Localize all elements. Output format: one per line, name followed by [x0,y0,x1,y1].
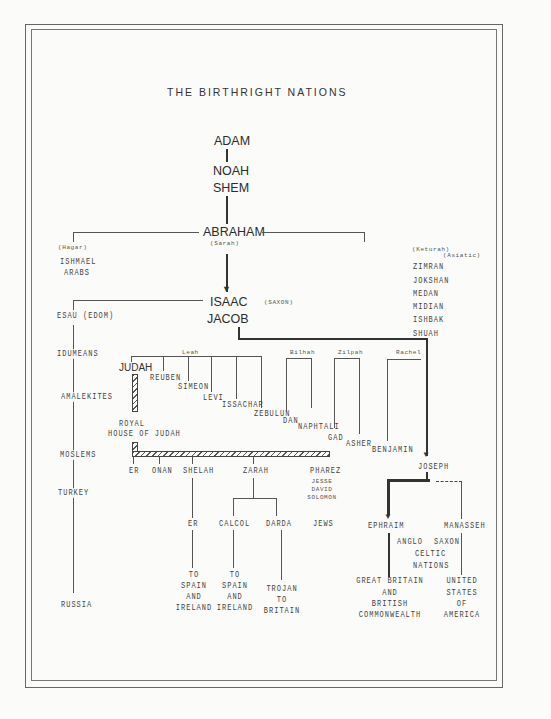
dest-calcol-1: TO [230,570,240,580]
line-er [133,457,134,464]
node-abraham: ABRAHAM [203,225,265,239]
line-leah-levi [211,356,212,392]
node-manasseh: MANASSEH [444,521,486,531]
line-isaac-esau [73,300,203,301]
chart-title: THE BIRTHRIGHT NATIONS [167,86,348,98]
node-house-of-judah: HOUSE OF JUDAH [108,429,181,439]
node-benjamin: BENJAMIN [372,445,414,455]
mother-zilpah: Zilpah [338,349,363,356]
dest-er-2: SPAIN [181,581,207,591]
node-darda: DARDA [266,519,292,529]
line-abraham-right [262,232,365,233]
node-moslems: MOSLEMS [60,450,96,460]
line-zilpah [334,358,360,359]
line-zilpah-gad [334,358,335,428]
people-anglo: ANGLO [397,537,423,547]
node-jokshan: JOKSHAN [413,276,449,286]
line-zarah-sons [233,498,276,499]
line-adam-noah [226,149,228,162]
line-joseph-ephraim-v [387,479,390,515]
node-shelah: SHELAH [183,466,214,476]
line-shelah-er [192,478,193,518]
node-calcol: CALCOL [219,519,250,529]
node-levi: LEVI [203,393,224,403]
node-jesse: JESSE [311,478,332,485]
dest-er-4: IRELAND [176,603,212,613]
hatched-royal-line [132,374,138,412]
node-shelah-er: ER [188,519,198,529]
line-zarah [253,457,254,464]
line-esau-drop [73,300,74,310]
line-zarah-down [253,478,254,498]
arrow-joseph-icon: ▼ [422,450,430,459]
people-nations: NATIONS [413,561,449,571]
dest-er-1: TO [189,570,199,580]
line-bilhah [286,358,312,359]
line-joseph-down [426,472,428,481]
nation-commonwealth: COMMONWEALTH [359,610,421,620]
line-calcol [233,498,234,516]
node-jacob: JACOB [207,312,249,326]
note-sarah: (Sarah) [210,240,239,247]
line-shem-abraham [226,196,228,224]
line-shelah [192,457,193,464]
line-darda [276,498,277,516]
line-bilhah-naphtali [311,358,312,408]
line-rachel [387,359,421,360]
node-noah: NOAH [213,164,249,178]
node-adam: ADAM [214,134,250,148]
node-gad: GAD [328,433,344,443]
people-saxon: SAXON [434,537,460,547]
line-leah-simeon [188,356,189,381]
line-manasseh-v [461,481,462,519]
node-idumeans: IDUMEANS [57,349,99,359]
line-keturah-drop [364,232,365,242]
line-joseph-manasseh-dashed [436,481,462,483]
line-jacob-joseph-v [426,338,428,456]
node-dan: DAN [283,416,299,426]
hatched-royal-bar [132,451,330,457]
mother-leah: Leah [182,349,199,356]
line-darda-britain [281,530,282,580]
line-zilpah-asher [359,358,360,434]
node-onan: ONAN [152,466,173,476]
node-zimran: ZIMRAN [413,262,444,272]
node-solomon: SOLOMON [307,494,336,501]
line-manasseh-usa [461,533,462,575]
dest-darda-3: BRITAIN [264,606,300,616]
line-calcol-spain [233,530,234,568]
nation-great-britain: GREAT BRITAIN [356,576,424,586]
node-reuben: REUBEN [150,373,181,383]
arrow-down-icon: ▼ [222,284,231,294]
line-onan [159,457,160,464]
line-jacob-joseph-h [238,338,428,340]
line-rachel-benjamin [387,359,388,441]
node-amalekites: AMALEKITES [61,392,113,402]
node-asher: ASHER [346,439,372,449]
node-joseph: JOSEPH [418,462,449,472]
line-er-spain [192,530,193,568]
node-ishmael: ISHMAEL [60,257,96,267]
node-jews: JEWS [313,519,334,529]
mother-rachel: Rachel [396,349,421,356]
node-medan: MEDAN [413,289,439,299]
people-celtic: CELTIC [415,549,446,559]
nation-and: AND [382,588,398,598]
node-judah: JUDAH [119,362,152,373]
node-pharez: PHAREZ [310,466,341,476]
nation-america: AMERICA [444,610,480,620]
nation-united: UNITED [446,576,477,586]
node-shem: SHEM [213,181,249,195]
node-arabs: ARABS [64,268,90,278]
line-hagar-drop [73,232,74,242]
node-russia: RUSSIA [61,600,92,610]
node-turkey: TURKEY [58,488,89,498]
node-esau: ESAU (EDOM) [57,311,114,321]
dest-darda-1: TROJAN [266,584,297,594]
dest-calcol-2: SPAIN [222,581,248,591]
nation-states: STATES [446,588,477,598]
dest-darda-2: TO [277,595,287,605]
nation-of: OF [457,599,467,609]
line-joseph-ephraim-h [388,479,430,482]
note-saxon: (SAXON) [264,299,293,306]
